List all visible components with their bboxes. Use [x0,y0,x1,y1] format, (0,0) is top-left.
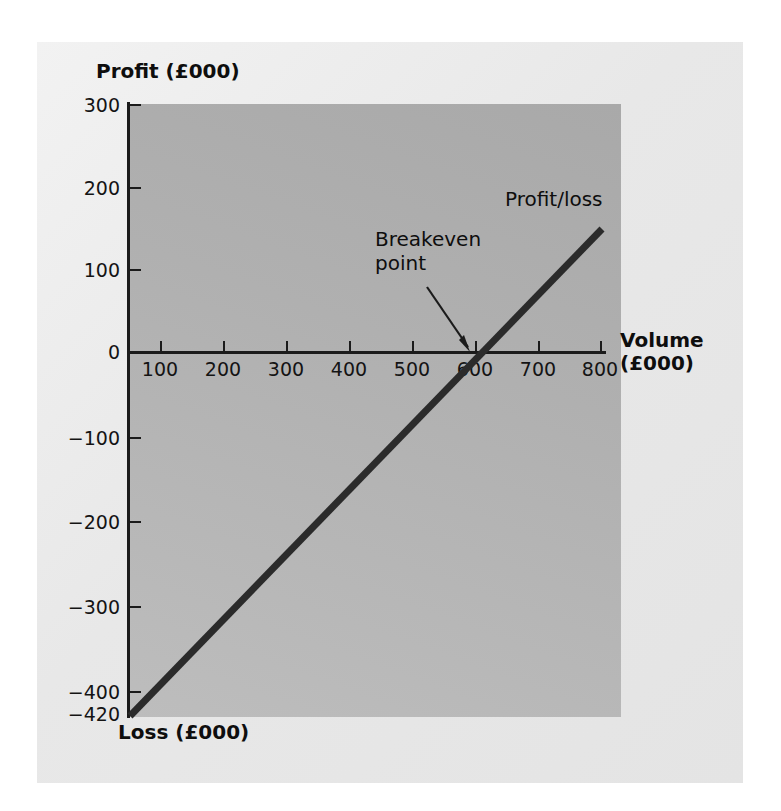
y-tick-label-minus-100: −100 [68,427,120,449]
y-tick-minus-400 [130,691,141,693]
y-tick-minus-200 [130,521,141,523]
x-tick-500 [412,341,414,352]
y-tick-label-0: 0 [108,341,120,363]
x-tick-label-200: 200 [205,358,241,380]
y-tick-label-minus-200: −200 [68,511,120,533]
x-tick-600 [475,341,477,352]
x-tick-label-400: 400 [331,358,367,380]
x-tick-label-800: 800 [582,358,618,380]
x-tick-200 [223,341,225,352]
y-tick-label-minus-400: −400 [68,681,120,703]
y-tick-100 [130,269,141,271]
y-tick-label-100: 100 [84,259,120,281]
y-tick-label-300: 300 [84,94,120,116]
x-axis-title-line1: Volume [620,329,704,352]
x-tick-label-100: 100 [142,358,178,380]
x-tick-label-300: 300 [268,358,304,380]
breakeven-annotation: Breakeven point [375,228,481,275]
x-tick-700 [538,341,540,352]
series-label-profit-loss: Profit/loss [505,188,603,212]
y-tick-200 [130,187,141,189]
x-tick-label-600: 600 [457,358,493,380]
x-tick-800 [600,341,602,352]
y-tick-minus-300 [130,606,141,608]
x-tick-300 [286,341,288,352]
y-tick-label-minus-300: −300 [68,596,120,618]
x-axis-line [127,351,606,354]
x-axis-title: Volume (£000) [620,329,704,375]
x-tick-100 [160,341,162,352]
y-tick-label-200: 200 [84,177,120,199]
breakeven-annotation-line2: point [375,252,481,276]
x-axis-title-line2: (£000) [620,352,704,375]
y-axis-line [127,102,130,718]
y-tick-300 [130,104,141,106]
y-tick-label-minus-420: −420 [68,703,120,725]
figure-background [37,42,743,783]
y-tick-minus-100 [130,437,141,439]
y-axis-title: Profit (£000) [96,60,240,83]
x-tick-400 [349,341,351,352]
y-axis-title-bottom: Loss (£000) [118,721,249,744]
breakeven-annotation-line1: Breakeven [375,228,481,252]
x-tick-label-700: 700 [520,358,556,380]
x-tick-label-500: 500 [394,358,430,380]
